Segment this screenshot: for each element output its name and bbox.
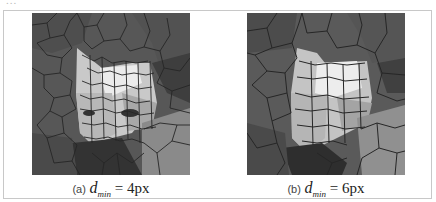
caption-a-equals: =: [115, 180, 123, 196]
mosaic-image-b: [247, 13, 405, 175]
caption-a-label: (a): [72, 183, 85, 195]
caption-b-equals: =: [330, 180, 338, 196]
caption-b-symbol: d: [305, 179, 313, 196]
caption-a-symbol: d: [90, 179, 98, 196]
caption-b-value: 6px: [342, 180, 365, 196]
caption-b-label: (b): [287, 183, 300, 195]
mosaic-image-a: [32, 13, 190, 175]
caption-a-subscript: min: [98, 189, 112, 199]
caption-b: (b) dmin = 6px: [226, 179, 426, 199]
caption-a-value: 4px: [127, 180, 150, 196]
clipped-text-fragment: ...: [6, 0, 17, 6]
voronoi-mosaic-b: [247, 13, 405, 175]
caption-b-subscript: min: [313, 189, 327, 199]
voronoi-mosaic-a: [32, 13, 190, 175]
caption-a: (a) dmin = 4px: [11, 179, 211, 199]
